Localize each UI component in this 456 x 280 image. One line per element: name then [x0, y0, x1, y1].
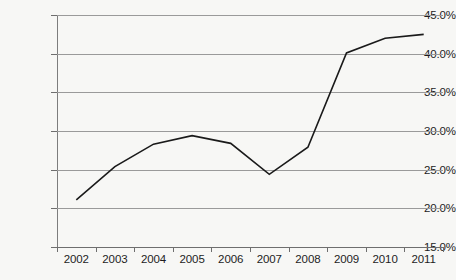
x-tick-mark [443, 247, 444, 252]
x-tick-mark [250, 247, 251, 252]
x-tick-label: 2002 [57, 253, 96, 265]
x-tick-mark [404, 247, 405, 252]
x-tick-label: 2005 [173, 253, 212, 265]
x-tick-label: 2010 [366, 253, 405, 265]
series-line [76, 34, 423, 200]
series-line-layer [57, 15, 443, 247]
x-tick-label: 2011 [404, 253, 443, 265]
x-tick-mark [366, 247, 367, 252]
x-tick-label: 2009 [327, 253, 366, 265]
x-tick-mark [57, 247, 58, 252]
x-tick-mark [211, 247, 212, 252]
x-tick-label: 2006 [211, 253, 250, 265]
x-tick-label: 2008 [289, 253, 328, 265]
x-tick-label: 2007 [250, 253, 289, 265]
x-tick-mark [289, 247, 290, 252]
x-tick-label: 2004 [134, 253, 173, 265]
x-tick-label: 2003 [96, 253, 135, 265]
x-tick-mark [327, 247, 328, 252]
x-tick-mark [173, 247, 174, 252]
line-chart: 15.0%20.0%25.0%30.0%35.0%40.0%45.0% 2002… [0, 0, 456, 280]
x-tick-mark [96, 247, 97, 252]
x-tick-mark [134, 247, 135, 252]
plot-area [57, 15, 443, 247]
